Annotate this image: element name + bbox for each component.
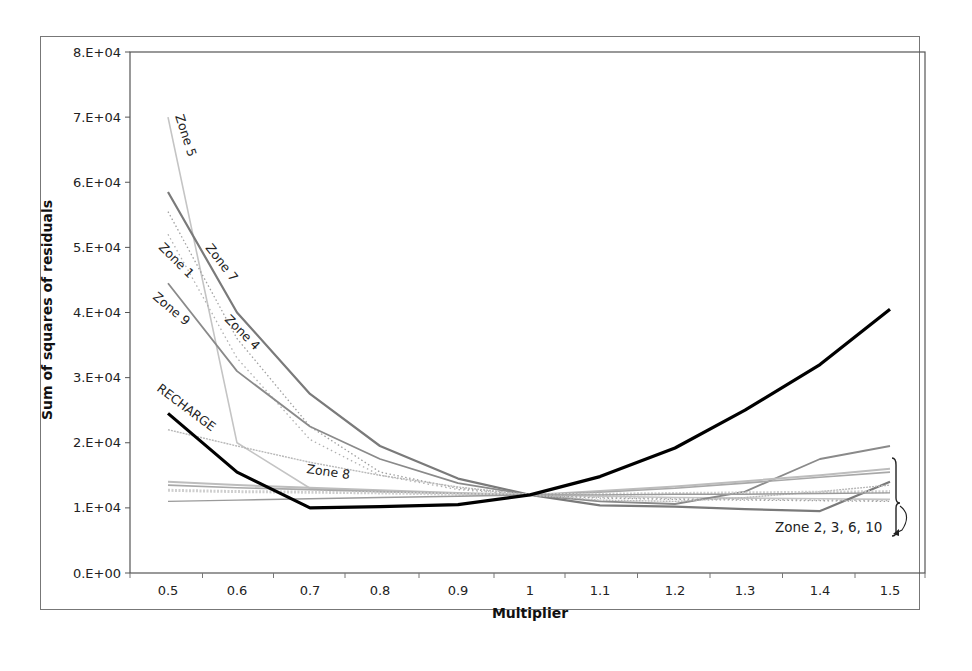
x-tick-label: 0.9 bbox=[448, 583, 469, 598]
series-line-zone-5 bbox=[168, 117, 890, 499]
y-axis-ticks: 0.E+001.E+042.E+043.E+044.E+045.E+046.E+… bbox=[73, 45, 130, 581]
series-line-zone-4 bbox=[168, 234, 890, 500]
x-tick-label: 0.6 bbox=[227, 583, 248, 598]
series-line-zone-7 bbox=[168, 192, 890, 511]
label-zone-group: Zone 2, 3, 6, 10 bbox=[775, 519, 882, 535]
x-tick-label: 1.4 bbox=[810, 583, 831, 598]
series-line-zone-9 bbox=[168, 283, 890, 504]
x-tick-label: 1.1 bbox=[590, 583, 611, 598]
group-bracket bbox=[892, 458, 900, 536]
label-zone-5: Zone 5 bbox=[172, 112, 200, 158]
x-axis-title: Multiplier bbox=[492, 605, 568, 621]
x-tick-label: 1.3 bbox=[735, 583, 756, 598]
x-tick-label: 0.8 bbox=[370, 583, 391, 598]
y-tick-label: 8.E+04 bbox=[73, 45, 121, 60]
x-tick-label: 1.5 bbox=[880, 583, 901, 598]
y-tick-label: 0.E+00 bbox=[73, 566, 121, 581]
group-arrow bbox=[896, 506, 907, 533]
y-tick-label: 3.E+04 bbox=[73, 370, 121, 385]
y-tick-label: 2.E+04 bbox=[73, 435, 121, 450]
label-recharge: RECHARGE bbox=[154, 380, 219, 434]
y-tick-label: 1.E+04 bbox=[73, 500, 121, 515]
x-tick-label: 0.7 bbox=[300, 583, 321, 598]
y-axis-title: Sum of squares of residuals bbox=[39, 200, 55, 420]
label-zone-9: Zone 9 bbox=[150, 289, 193, 329]
label-zone-8: Zone 8 bbox=[306, 461, 351, 482]
line-chart: 0.E+001.E+042.E+043.E+044.E+045.E+046.E+… bbox=[0, 0, 972, 671]
series-lines bbox=[168, 117, 890, 511]
y-tick-label: 7.E+04 bbox=[73, 110, 121, 125]
x-axis-ticks: 0.50.60.70.80.911.11.21.31.41.5 bbox=[130, 573, 925, 598]
y-tick-label: 5.E+04 bbox=[73, 240, 121, 255]
label-zone-1: Zone 1 bbox=[156, 240, 198, 282]
x-tick-label: 0.5 bbox=[158, 583, 179, 598]
y-tick-label: 6.E+04 bbox=[73, 175, 121, 190]
y-tick-label: 4.E+04 bbox=[73, 305, 121, 320]
x-tick-label: 1.2 bbox=[665, 583, 686, 598]
x-tick-label: 1 bbox=[526, 583, 534, 598]
